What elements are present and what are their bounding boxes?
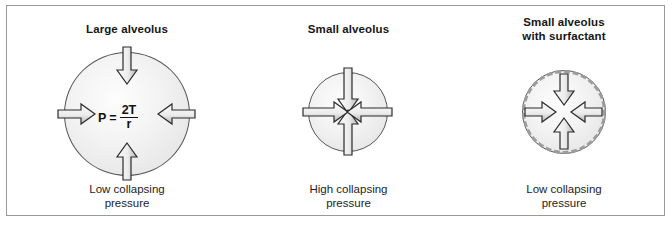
panel-small-alveolus-with-surfactant: Small alveolus with surfactant	[456, 6, 672, 217]
alveoli-surface-tension-figure: Large alveolus P = 2T r	[0, 0, 672, 225]
large-alveolus-group: P = 2T r	[64, 52, 190, 176]
panel-small-caption-line2: pressure	[241, 197, 456, 211]
laplace-law-formula: P = 2T r	[98, 104, 138, 131]
panel-small-alveolus: Small alveolus	[241, 6, 456, 217]
formula-fraction: 2T r	[120, 104, 139, 131]
panel-surfactant-title: Small alveolus with surfactant	[456, 16, 672, 43]
formula-denominator: r	[125, 118, 134, 131]
panel-surfactant-caption-line2: pressure	[456, 197, 672, 211]
figure-border: Large alveolus P = 2T r	[6, 5, 665, 216]
formula-equals-sign: =	[109, 111, 116, 125]
panel-small-caption: High collapsing pressure	[241, 183, 456, 210]
formula-pressure-symbol: P	[98, 111, 106, 125]
panel-surfactant-caption-line1: Low collapsing	[456, 183, 672, 197]
panel-surfactant-title-line1: Small alveolus	[456, 16, 672, 30]
large-alveolus-arrow-left	[57, 103, 97, 125]
surfactant-alveolus-arrow-left	[524, 101, 558, 123]
small-alveolus-arrow-right	[346, 101, 394, 123]
large-alveolus-arrow-bottom	[116, 142, 138, 182]
panel-surfactant-title-line2: with surfactant	[456, 30, 672, 44]
surfactant-alveolus-arrow-right	[570, 101, 604, 123]
formula-numerator: 2T	[120, 104, 139, 118]
surfactant-alveolus-group	[522, 70, 606, 154]
panel-small-caption-line1: High collapsing	[241, 183, 456, 197]
panel-large-caption: Low collapsing pressure	[13, 183, 241, 210]
panel-surfactant-caption: Low collapsing pressure	[456, 183, 672, 210]
panel-large-alveolus: Large alveolus P = 2T r	[13, 6, 241, 217]
panel-large-caption-line2: pressure	[13, 197, 241, 211]
panel-large-caption-line1: Low collapsing	[13, 183, 241, 197]
panel-large-title: Large alveolus	[13, 23, 241, 37]
large-alveolus-arrow-right	[157, 103, 197, 125]
small-alveolus-group	[308, 72, 388, 152]
panel-small-title: Small alveolus	[241, 23, 456, 37]
small-alveolus-arrow-left	[302, 101, 350, 123]
large-alveolus-arrow-top	[116, 46, 138, 86]
